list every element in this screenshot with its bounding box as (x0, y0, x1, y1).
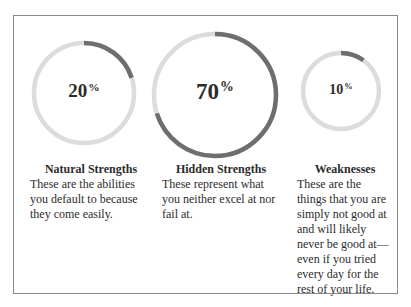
title-natural-strengths: Natural Strengths (30, 162, 152, 177)
desc-natural-strengths: These are the abilities you default to b… (30, 177, 138, 221)
desc-hidden-strengths: These represent what you neither excel a… (162, 177, 275, 221)
desc-weaknesses: These are the things that you are simply… (297, 177, 389, 296)
label-natural-strengths: Natural Strengths These are the abilitie… (30, 162, 152, 222)
value-weaknesses: 10% (316, 82, 366, 98)
title-weaknesses: Weaknesses (297, 162, 393, 177)
value-natural-strengths: 20% (54, 80, 114, 102)
label-hidden-strengths: Hidden Strengths These represent what yo… (162, 162, 280, 222)
label-weaknesses: Weaknesses These are the things that you… (297, 162, 393, 297)
value-hidden-strengths: 70% (180, 79, 250, 105)
title-hidden-strengths: Hidden Strengths (162, 162, 280, 177)
